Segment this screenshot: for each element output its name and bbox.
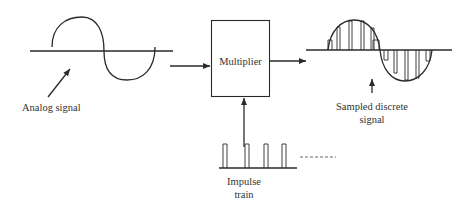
multiplier-label: Multiplier (219, 56, 262, 67)
multiplier-block: Multiplier (212, 21, 270, 97)
sampling-diagram: Analog signal Multiplier Sampled di (0, 0, 471, 205)
impulse-train-graph (219, 144, 336, 168)
analog-sine-wave (52, 17, 155, 80)
impulses (223, 144, 286, 168)
sampled-signal-label-line2: signal (359, 114, 384, 125)
analog-signal-pointer-arrow (48, 69, 70, 97)
impulse-train-label-line1: Impulse (227, 176, 261, 187)
analog-signal-label: Analog signal (22, 102, 81, 113)
positive-samples (328, 21, 379, 50)
sampled-signal-label-line1: Sampled discrete (336, 101, 408, 112)
impulse-train-label-line2: train (234, 189, 254, 200)
analog-signal-graph (30, 17, 173, 80)
sampled-signal-graph (306, 20, 452, 81)
